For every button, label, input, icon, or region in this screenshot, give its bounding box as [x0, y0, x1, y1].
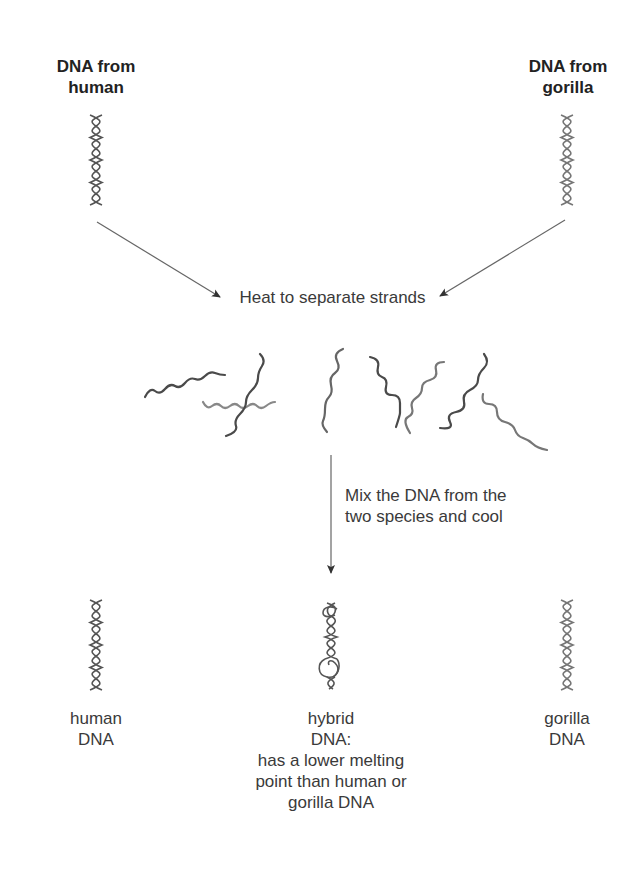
- gorilla-source-line-2: gorilla: [518, 77, 618, 98]
- hybrid-dna-result-line-3: has a lower melting: [241, 750, 421, 771]
- hybrid-dna-helix-icon: [319, 603, 339, 689]
- hybrid-dna-result-line-5: gorilla DNA: [241, 792, 421, 813]
- mix-step-label: Mix the DNA from the two species and coo…: [345, 485, 520, 527]
- mix-step-line-2: two species and cool: [345, 506, 520, 527]
- mix-step-line-1: Mix the DNA from the: [345, 485, 520, 506]
- human-source-line-2: human: [46, 77, 146, 98]
- gorilla-dna-result-line-2: DNA: [527, 729, 607, 750]
- human-dna-result-line-2: DNA: [56, 729, 136, 750]
- hybrid-dna-result-label: hybrid DNA: has a lower melting point th…: [241, 708, 421, 813]
- human-dna-result-helix-icon: [90, 600, 102, 690]
- human-dna-helix-icon: [90, 115, 102, 205]
- separated-strands-icon: [145, 349, 547, 450]
- gorilla-source-line-1: DNA from: [518, 56, 618, 77]
- hybrid-dna-result-line-1: hybrid: [241, 708, 421, 729]
- gorilla-source-label: DNA from gorilla: [518, 56, 618, 98]
- hybrid-dna-result-line-2: DNA:: [241, 729, 421, 750]
- gorilla-dna-result-line-1: gorilla: [527, 708, 607, 729]
- arrow-gorilla-to-heat: [440, 220, 565, 296]
- human-source-label: DNA from human: [46, 56, 146, 98]
- gorilla-dna-result-helix-icon: [561, 600, 573, 690]
- hybrid-dna-result-line-4: point than human or: [241, 771, 421, 792]
- gorilla-dna-helix-icon: [561, 115, 573, 205]
- heat-step-text: Heat to separate strands: [225, 287, 440, 308]
- gorilla-dna-result-label: gorilla DNA: [527, 708, 607, 750]
- heat-step-label: Heat to separate strands: [225, 287, 440, 308]
- human-dna-result-line-1: human: [56, 708, 136, 729]
- human-source-line-1: DNA from: [46, 56, 146, 77]
- arrow-human-to-heat: [97, 222, 220, 297]
- human-dna-result-label: human DNA: [56, 708, 136, 750]
